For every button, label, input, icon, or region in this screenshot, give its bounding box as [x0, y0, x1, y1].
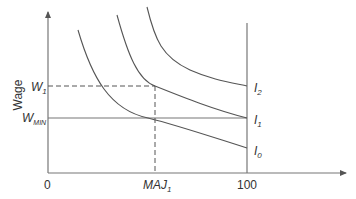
x-max-label: 100	[237, 178, 257, 192]
diagram-canvas: Wage W1 WMIN 0 100 MAJ1 I2 I1 I0	[0, 0, 356, 199]
w1-label: W1	[31, 80, 47, 96]
i1-label: I1	[254, 113, 262, 129]
wmin-label: WMIN	[22, 111, 47, 126]
y-axis-label: Wage	[11, 79, 25, 110]
curve-i1	[117, 15, 247, 118]
maj1-label: MAJ1	[143, 178, 171, 194]
curve-i2	[147, 7, 247, 86]
i0-label: I0	[254, 144, 262, 160]
indifference-curve-diagram: Wage W1 WMIN 0 100 MAJ1 I2 I1 I0	[0, 0, 356, 199]
origin-label: 0	[44, 178, 51, 192]
i2-label: I2	[254, 81, 262, 97]
